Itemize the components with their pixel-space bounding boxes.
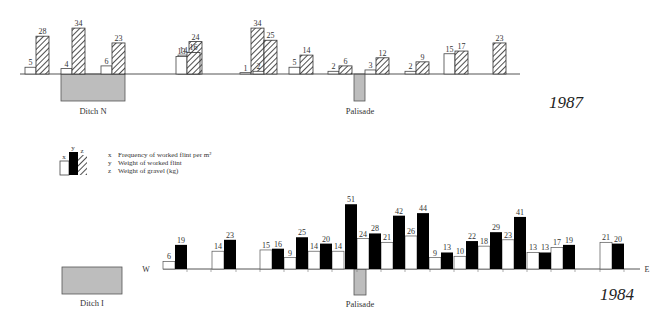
value-label: 5 [293, 58, 297, 67]
value-label: 13 [541, 243, 549, 252]
bar-y-1984 [514, 217, 526, 269]
bar-y-1984 [539, 252, 551, 269]
bar-z-1987 [455, 51, 468, 74]
legend-key-z: z [80, 147, 83, 155]
value-label: 44 [419, 204, 427, 213]
value-label: 28 [39, 27, 47, 36]
value-label: 25 [298, 228, 306, 237]
value-label: 13 [443, 243, 451, 252]
bar-x-1987 [328, 71, 339, 74]
value-label: 34 [75, 19, 83, 28]
value-label: 1 [244, 64, 248, 73]
bar-y-1984 [296, 237, 308, 269]
year-label-1984: 1984 [600, 285, 635, 304]
bar-x-1984 [212, 251, 224, 269]
bar-y-1984 [612, 244, 624, 269]
value-label: 41 [516, 208, 524, 217]
ditch-i-label: Ditch I [80, 298, 104, 308]
legend-key-x: x [62, 153, 66, 161]
year-label-1987: 1987 [549, 93, 585, 112]
value-label: 24 [359, 230, 367, 239]
bar-x-1987 [25, 67, 36, 74]
bar-x-1987 [444, 54, 455, 74]
legend-item-text: Frequency of worked flint per m² [118, 151, 211, 159]
bar-z-1987 [264, 40, 277, 74]
bar-z-1987 [36, 36, 49, 74]
value-label: 2 [332, 62, 336, 71]
palisade-label-1987: Palisade [346, 106, 375, 116]
value-label: 20 [614, 235, 622, 244]
bar-y-1984 [224, 240, 236, 269]
bar-x-1984 [357, 239, 369, 269]
legend-swatch-y [69, 152, 78, 175]
value-label: 17 [458, 42, 466, 51]
value-label: 19 [177, 236, 185, 245]
bar-y-1984 [369, 233, 381, 269]
bar-x-1984 [163, 261, 175, 269]
value-label: 28 [371, 224, 379, 233]
value-label: 14 [214, 242, 222, 251]
value-label: 29 [492, 223, 500, 232]
bar-x-1987 [253, 71, 264, 74]
value-label: 9 [288, 249, 292, 258]
value-label: 16 [190, 43, 198, 52]
palisade-feature-1987 [354, 74, 365, 101]
bar-x-1984 [284, 258, 296, 269]
value-label: 18 [480, 237, 488, 246]
value-label: 17 [553, 238, 561, 247]
legend-swatch-z [78, 155, 87, 175]
value-label: 19 [565, 236, 573, 245]
bar-x-1987 [101, 66, 112, 74]
legend-swatch-x [60, 161, 69, 175]
value-label: 23 [496, 34, 504, 43]
value-label: 6 [167, 252, 171, 261]
value-label: 23 [226, 231, 234, 240]
bar-x-1984 [332, 251, 344, 269]
panel-1987: 528434623142413161342255142631229151723 [20, 19, 520, 101]
bar-x-1984 [308, 251, 320, 269]
ditch-n-label: Ditch N [79, 106, 106, 116]
value-label: 15 [446, 45, 454, 54]
value-label: 15 [262, 241, 270, 250]
panel-1984: 6141591414242126910182313172119231625205… [62, 195, 640, 295]
value-label: 14 [310, 242, 318, 251]
value-label: 10 [456, 247, 464, 256]
value-label: 16 [274, 240, 282, 249]
bar-z-1987 [112, 43, 125, 74]
value-label: 12 [379, 49, 387, 58]
value-label: 22 [468, 232, 476, 241]
bar-x-1984 [405, 236, 417, 269]
legend: x y z x Frequency of worked flint per m²… [60, 144, 211, 175]
bar-x-1984 [478, 246, 490, 269]
excavation-flint-chart: 528434623142413161342255142631229151723 … [0, 0, 665, 321]
bar-x-1984 [429, 258, 441, 269]
bar-x-1984 [527, 252, 539, 269]
bar-x-1987 [289, 67, 300, 74]
value-label: 9 [421, 53, 425, 62]
legend-item-key: y [108, 159, 112, 167]
bar-y-1984 [441, 252, 453, 269]
bar-z-1987 [72, 28, 85, 74]
bar-z-1987 [300, 55, 313, 74]
palisade-feature-1984 [354, 269, 366, 295]
value-label: 14 [334, 242, 342, 251]
east-label: E [645, 265, 650, 274]
west-label: W [142, 265, 150, 274]
bar-z-1987 [339, 66, 352, 74]
bar-y-1984 [563, 245, 575, 269]
value-label: 13 [178, 47, 186, 56]
bar-x-1987 [61, 69, 72, 74]
bar-y-1984 [417, 213, 429, 269]
bar-x-1987 [405, 71, 416, 74]
value-label: 13 [529, 243, 537, 252]
bar-y-1984 [466, 241, 478, 269]
bar-x-1987 [365, 70, 376, 74]
value-label: 4 [65, 60, 69, 69]
value-label: 2 [409, 62, 413, 71]
value-label: 6 [105, 57, 109, 66]
palisade-label-1984: Palisade [346, 299, 375, 309]
value-label: 23 [504, 231, 512, 240]
bar-z-1987 [416, 62, 429, 74]
value-label: 25 [267, 31, 275, 40]
value-label: 21 [383, 233, 391, 242]
